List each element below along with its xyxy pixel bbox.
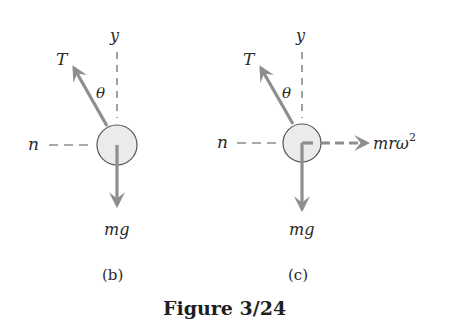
inertial-force-exponent: 2 — [409, 131, 416, 144]
angle-label: θ — [282, 84, 291, 102]
panel-c-sublabel: (c) — [288, 266, 308, 284]
n-axis-label: n — [28, 134, 39, 154]
tension-label: T — [56, 49, 69, 69]
inertial-force-label: mrω2 — [373, 131, 416, 153]
free-body-diagrams: y T θ n mg (b) y T θ n mrω2 mg (c) Figur… — [0, 0, 450, 322]
inertial-force-base: mrω — [373, 134, 409, 153]
y-axis-label: y — [295, 26, 306, 45]
panel-b-sublabel: (b) — [102, 266, 123, 284]
y-axis-label: y — [109, 26, 120, 45]
weight-label: mg — [104, 220, 129, 239]
figure-caption: Figure 3/24 — [163, 297, 286, 319]
panel-b: y T θ n mg (b) — [28, 26, 137, 284]
tension-label: T — [243, 49, 256, 69]
angle-label: θ — [96, 84, 105, 102]
panel-c: y T θ n mrω2 mg (c) — [217, 26, 416, 284]
n-axis-label: n — [217, 132, 228, 152]
weight-label: mg — [289, 220, 314, 239]
